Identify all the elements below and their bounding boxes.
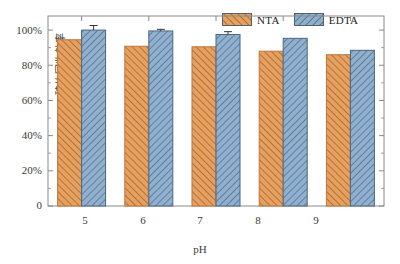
chart-figure: 硫的回收效率 0 20% 40% 60% 80% 100% 5 6 7 8 9 … bbox=[0, 0, 400, 264]
bar bbox=[192, 47, 216, 206]
bars-group bbox=[58, 30, 375, 206]
bar bbox=[149, 31, 173, 206]
bar bbox=[350, 50, 374, 206]
bar bbox=[82, 30, 106, 206]
plot-area bbox=[0, 0, 400, 264]
bar bbox=[283, 38, 307, 206]
bar bbox=[326, 55, 350, 206]
bar bbox=[259, 51, 283, 206]
bar bbox=[216, 34, 240, 206]
bar bbox=[125, 46, 149, 206]
bar bbox=[58, 40, 82, 206]
